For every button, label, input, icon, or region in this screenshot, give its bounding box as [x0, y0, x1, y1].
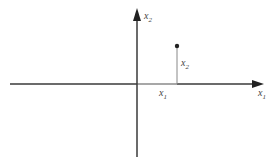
data-point — [175, 44, 179, 48]
vector-diagram: x2 x2 x1 x1 — [0, 0, 274, 165]
horizontal-axis-label: x1 — [257, 87, 266, 101]
vertical-axis-arrow-icon — [133, 8, 141, 21]
point-projection-label: x1 — [158, 87, 167, 101]
vertical-axis-label: x2 — [143, 10, 152, 24]
point-height-label: x2 — [180, 57, 189, 71]
